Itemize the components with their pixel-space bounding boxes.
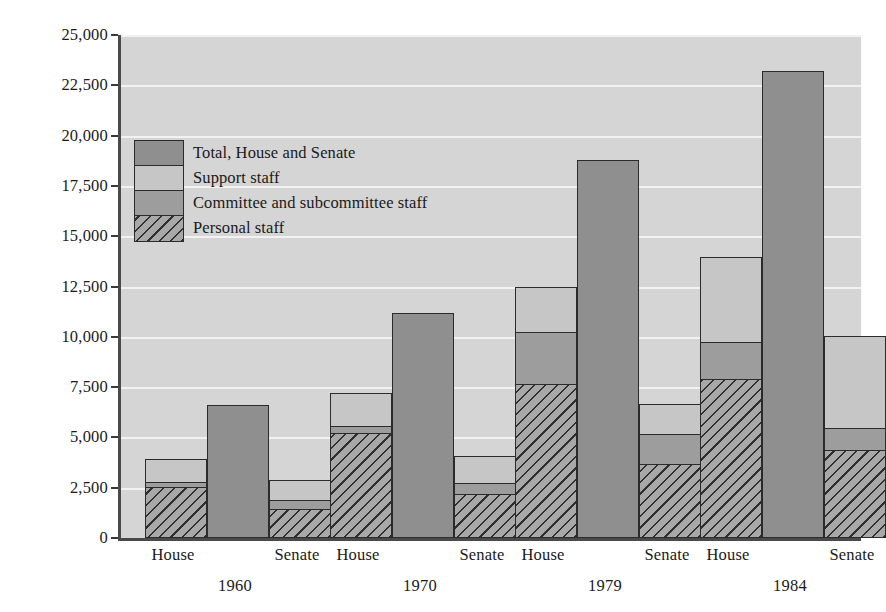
y-axis-tick-mark xyxy=(111,436,118,438)
segment-support xyxy=(145,459,207,483)
segment-support xyxy=(515,287,577,333)
bar-total-1979 xyxy=(577,160,639,538)
y-axis-tick-label: 25,000 xyxy=(61,25,108,45)
y-axis-tick-label: 17,500 xyxy=(61,175,108,195)
y-axis-tick-mark xyxy=(111,185,118,187)
x-axis-year-label-1970: 1970 xyxy=(403,576,437,596)
bar-house-1979 xyxy=(515,289,577,538)
bar-senate-1979 xyxy=(639,405,701,538)
segment-personal xyxy=(639,463,701,538)
segment-total xyxy=(392,313,454,538)
y-axis-tick-mark xyxy=(111,34,118,36)
bar-total-1984 xyxy=(762,71,824,538)
legend-label-personal: Personal staff xyxy=(193,215,427,240)
x-axis-chamber-label-house-1970: House xyxy=(336,545,379,565)
y-axis-tick-label: 10,000 xyxy=(61,326,108,346)
y-axis-tick-label: 20,000 xyxy=(61,125,108,145)
gridline xyxy=(121,85,861,87)
legend-swatch-support xyxy=(135,166,183,191)
bar-house-1960 xyxy=(145,461,207,538)
segment-personal xyxy=(269,508,331,538)
bar-house-1970 xyxy=(330,394,392,538)
x-axis-year-label-1979: 1979 xyxy=(588,576,622,596)
y-axis-tick-mark xyxy=(111,336,118,338)
segment-support xyxy=(639,404,701,436)
x-axis-chamber-label-senate-1960: Senate xyxy=(274,545,319,565)
segment-committee xyxy=(639,434,701,465)
bar-total-1960 xyxy=(207,405,269,538)
legend-label-committee: Committee and subcommittee staff xyxy=(193,190,427,215)
x-axis-chamber-label-house-1960: House xyxy=(151,545,194,565)
x-axis-chamber-label-house-1984: House xyxy=(706,545,749,565)
x-axis: HouseSenate1960HouseSenate1970HouseSenat… xyxy=(0,540,886,612)
segment-support xyxy=(330,393,392,428)
x-axis-chamber-label-senate-1970: Senate xyxy=(459,545,504,565)
segment-personal xyxy=(330,433,392,538)
segment-personal xyxy=(700,378,762,538)
bar-senate-1960 xyxy=(269,482,331,538)
segment-committee xyxy=(700,341,762,380)
y-axis-tick-mark xyxy=(111,487,118,489)
segment-committee xyxy=(515,331,577,385)
segment-personal xyxy=(145,486,207,538)
y-axis-tick-label: 12,500 xyxy=(61,276,108,296)
y-axis-tick-label: 22,500 xyxy=(61,75,108,95)
x-axis-chamber-label-senate-1979: Senate xyxy=(644,545,689,565)
bar-senate-1984 xyxy=(824,338,886,538)
bar-total-1970 xyxy=(392,313,454,538)
segment-support xyxy=(454,456,516,484)
legend: Total, House and SenateSupport staffComm… xyxy=(134,140,427,242)
gridline xyxy=(121,35,861,37)
gridline xyxy=(121,136,861,138)
bar-senate-1970 xyxy=(454,458,516,538)
legend-label-support: Support staff xyxy=(193,165,427,190)
bar-house-1984 xyxy=(700,258,762,538)
y-axis-tick-mark xyxy=(111,135,118,137)
y-axis-tick-label: 7,500 xyxy=(70,377,108,397)
y-axis-tick-mark xyxy=(111,537,118,539)
y-axis-tick-mark xyxy=(111,84,118,86)
segment-total xyxy=(762,71,824,538)
y-axis: 02,5005,0007,50010,00012,50015,00017,500… xyxy=(0,0,118,560)
segment-committee xyxy=(824,428,886,452)
y-axis-tick-mark xyxy=(111,286,118,288)
x-axis-chamber-label-senate-1984: Senate xyxy=(829,545,874,565)
segment-committee xyxy=(454,482,516,495)
segment-total xyxy=(207,405,269,538)
x-axis-year-label-1960: 1960 xyxy=(218,576,252,596)
legend-swatch-personal xyxy=(135,216,183,241)
segment-support xyxy=(824,336,886,429)
segment-total xyxy=(577,160,639,538)
segment-support xyxy=(269,480,331,501)
y-axis-tick-mark xyxy=(111,386,118,388)
legend-labels: Total, House and SenateSupport staffComm… xyxy=(193,140,427,242)
segment-committee xyxy=(269,499,331,510)
y-axis-tick-mark xyxy=(111,235,118,237)
segment-personal xyxy=(454,493,516,538)
legend-swatches xyxy=(134,140,184,242)
segment-support xyxy=(700,257,762,343)
y-axis-tick-label: 5,000 xyxy=(70,427,108,447)
plot-area: Total, House and SenateSupport staffComm… xyxy=(118,35,861,541)
x-axis-year-label-1984: 1984 xyxy=(773,576,807,596)
stacked-bar-chart-figure: 02,5005,0007,50010,00012,50015,00017,500… xyxy=(0,0,886,612)
y-axis-tick-label: 15,000 xyxy=(61,226,108,246)
segment-personal xyxy=(515,384,577,539)
x-axis-chamber-label-house-1979: House xyxy=(521,545,564,565)
segment-personal xyxy=(824,450,886,538)
legend-label-total: Total, House and Senate xyxy=(193,140,427,165)
y-axis-tick-label: 2,500 xyxy=(70,477,108,497)
legend-swatch-committee xyxy=(135,191,183,216)
legend-swatch-total xyxy=(135,141,183,166)
